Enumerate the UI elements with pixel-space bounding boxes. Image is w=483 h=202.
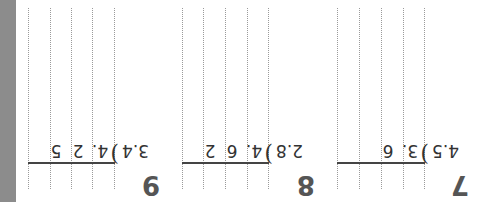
divisor: 2.8 (276, 140, 303, 162)
worksheet: 7 4.5 ) 3. 6 8 2.8 ) 4. 6 2 9 3.4 ) (0, 0, 483, 202)
division-bar (182, 162, 269, 164)
division-bracket: ) (110, 142, 119, 166)
divisor: 4.5 (432, 140, 459, 162)
dividend-digit: 6 (377, 140, 399, 162)
page-edge-strip (0, 0, 16, 202)
division-bar (28, 162, 115, 164)
dividend-digit: 2 (199, 140, 221, 162)
division-bar (337, 162, 425, 164)
dividend-digit: 4. (243, 140, 265, 162)
divisor: 3.4 (122, 140, 149, 162)
dividend-digit: 2 (67, 140, 89, 162)
problem-8: 8 2.8 ) 4. 6 2 (178, 0, 328, 202)
division-bracket: ) (264, 142, 273, 166)
problem-number: 7 (451, 172, 469, 198)
problem-7: 7 4.5 ) 3. 6 (333, 0, 483, 202)
problem-number: 9 (142, 172, 160, 198)
dividend-digit: 4. (89, 140, 111, 162)
dividend-digit: 3. (399, 140, 421, 162)
dividend-digit: 5 (45, 140, 67, 162)
dividend-digit: 6 (221, 140, 243, 162)
division-bracket: ) (420, 142, 429, 166)
problem-9: 9 3.4 ) 4. 2 5 (23, 0, 173, 202)
problem-number: 8 (297, 172, 315, 198)
